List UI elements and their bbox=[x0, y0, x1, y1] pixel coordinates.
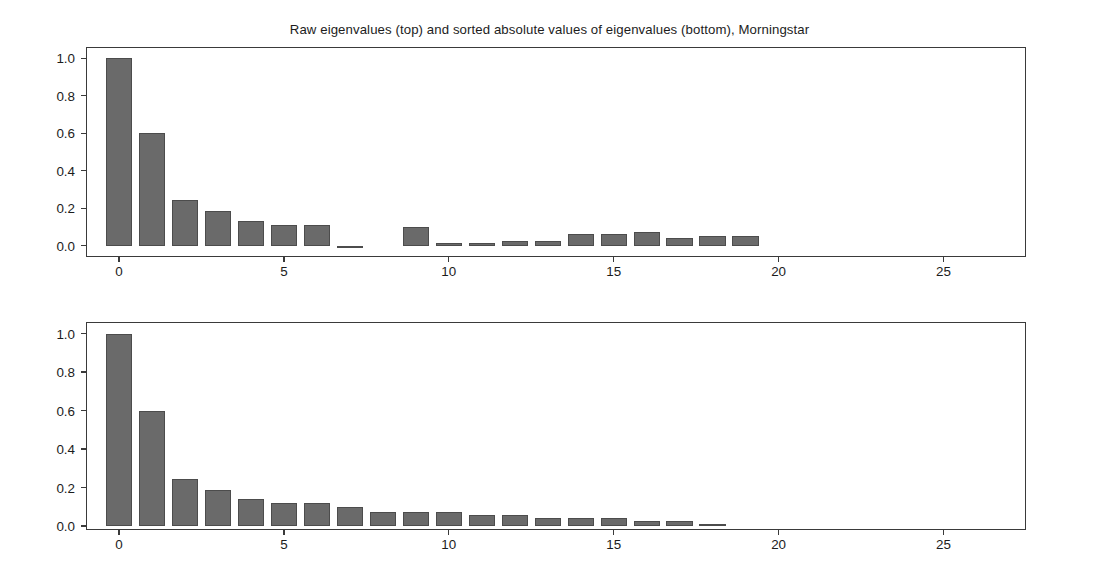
bar bbox=[106, 58, 132, 246]
bar bbox=[699, 236, 725, 245]
x-tick-mark bbox=[943, 530, 944, 535]
x-tick-label: 20 bbox=[771, 264, 786, 279]
y-tick-label: 0.6 bbox=[56, 126, 75, 141]
x-tick-label: 10 bbox=[441, 537, 456, 552]
bar bbox=[469, 515, 495, 527]
x-tick-label: 0 bbox=[115, 537, 122, 552]
bar bbox=[106, 334, 132, 527]
x-tick-mark bbox=[613, 257, 614, 262]
y-tick-label: 0.6 bbox=[56, 403, 75, 418]
x-tick-label: 15 bbox=[606, 264, 621, 279]
figure-canvas: Raw eigenvalues (top) and sorted absolut… bbox=[0, 0, 1099, 583]
y-tick-label: 0.2 bbox=[56, 201, 75, 216]
bar bbox=[436, 243, 462, 245]
bar bbox=[238, 221, 264, 246]
figure-title: Raw eigenvalues (top) and sorted absolut… bbox=[0, 22, 1099, 37]
top-chart-panel bbox=[86, 47, 1026, 257]
y-tick-mark bbox=[81, 371, 86, 372]
x-tick-label: 5 bbox=[280, 537, 287, 552]
x-tick-mark bbox=[613, 530, 614, 535]
bar bbox=[469, 243, 495, 246]
bottom-plot-area bbox=[86, 322, 1026, 530]
x-tick-label: 15 bbox=[606, 537, 621, 552]
y-tick-mark bbox=[81, 95, 86, 96]
bar bbox=[271, 225, 297, 246]
bar bbox=[304, 503, 330, 526]
y-tick-mark bbox=[81, 245, 86, 246]
y-tick-mark bbox=[81, 133, 86, 134]
y-tick-mark bbox=[81, 525, 86, 526]
bar bbox=[337, 507, 363, 526]
x-tick-label: 25 bbox=[936, 537, 951, 552]
x-tick-mark bbox=[943, 257, 944, 262]
bar bbox=[337, 246, 363, 248]
bar bbox=[699, 524, 725, 526]
bottom-chart-panel bbox=[86, 322, 1026, 530]
x-tick-label: 5 bbox=[280, 264, 287, 279]
x-tick-label: 25 bbox=[936, 264, 951, 279]
x-tick-mark bbox=[283, 530, 284, 535]
bar bbox=[205, 490, 231, 527]
y-tick-mark bbox=[81, 170, 86, 171]
x-tick-mark bbox=[283, 257, 284, 262]
bar bbox=[403, 227, 429, 246]
y-tick-label: 1.0 bbox=[56, 326, 75, 341]
bar bbox=[666, 521, 692, 526]
x-tick-mark bbox=[448, 257, 449, 262]
bar bbox=[634, 232, 660, 246]
x-tick-mark bbox=[778, 257, 779, 262]
bar bbox=[502, 241, 528, 246]
y-tick-label: 0.8 bbox=[56, 365, 75, 380]
y-tick-label: 0.0 bbox=[56, 519, 75, 534]
bar bbox=[271, 503, 297, 526]
bar bbox=[403, 512, 429, 526]
bar bbox=[732, 236, 758, 246]
bar bbox=[304, 225, 330, 246]
bar bbox=[370, 512, 396, 526]
y-tick-label: 0.4 bbox=[56, 163, 75, 178]
y-tick-label: 0.2 bbox=[56, 480, 75, 495]
x-tick-mark bbox=[778, 530, 779, 535]
bar bbox=[634, 521, 660, 526]
bar bbox=[666, 238, 692, 246]
x-tick-mark bbox=[118, 257, 119, 262]
bar bbox=[502, 515, 528, 526]
y-tick-label: 0.8 bbox=[56, 88, 75, 103]
y-tick-mark bbox=[81, 487, 86, 488]
y-tick-mark bbox=[81, 58, 86, 59]
top-plot-area bbox=[86, 47, 1026, 257]
bar bbox=[172, 479, 198, 526]
x-tick-label: 0 bbox=[115, 264, 122, 279]
bar bbox=[568, 234, 594, 246]
bar bbox=[436, 512, 462, 526]
y-tick-mark bbox=[81, 448, 86, 449]
x-tick-label: 10 bbox=[441, 264, 456, 279]
bar bbox=[535, 518, 561, 526]
bar bbox=[172, 200, 198, 246]
x-tick-mark bbox=[118, 530, 119, 535]
bar bbox=[601, 518, 627, 526]
y-tick-mark bbox=[81, 333, 86, 334]
y-tick-label: 0.0 bbox=[56, 238, 75, 253]
y-tick-label: 0.4 bbox=[56, 442, 75, 457]
bar bbox=[139, 133, 165, 246]
bar bbox=[568, 518, 594, 526]
bar bbox=[238, 499, 264, 526]
bar bbox=[139, 411, 165, 527]
y-tick-mark bbox=[81, 410, 86, 411]
bar bbox=[601, 234, 627, 246]
x-tick-label: 20 bbox=[771, 537, 786, 552]
y-tick-label: 1.0 bbox=[56, 51, 75, 66]
y-tick-mark bbox=[81, 208, 86, 209]
bar bbox=[535, 241, 561, 245]
bar bbox=[205, 211, 231, 246]
x-tick-mark bbox=[448, 530, 449, 535]
